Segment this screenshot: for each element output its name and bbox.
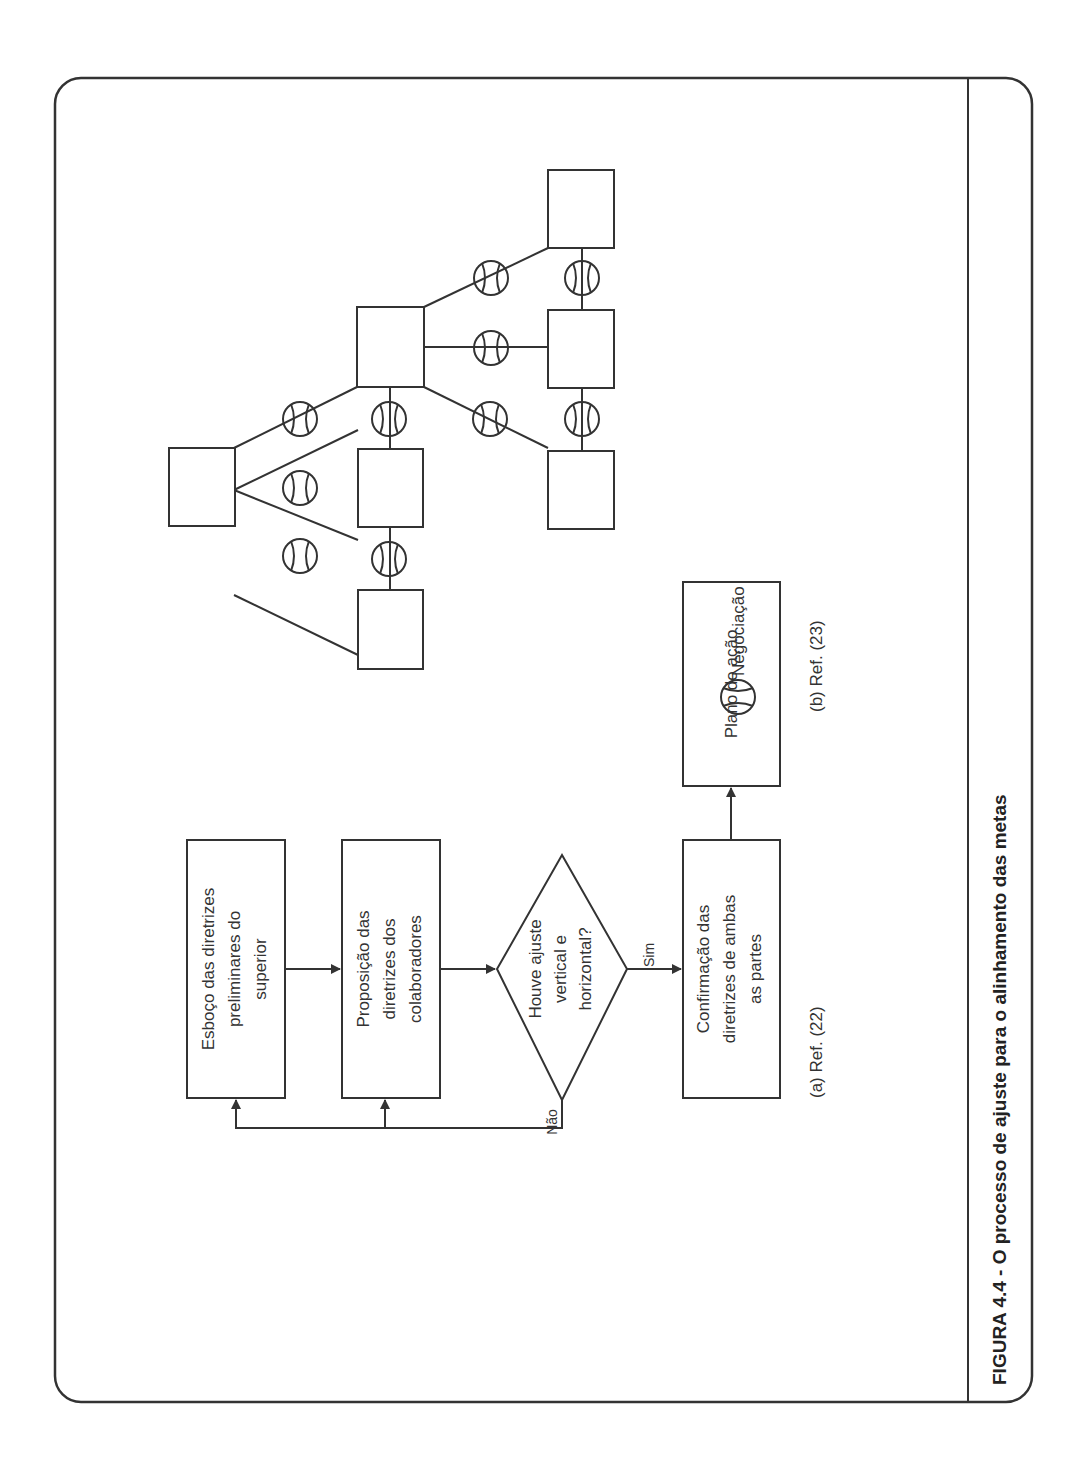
box-esboco-line2: preliminares do — [225, 911, 244, 1027]
box-proposicao-line1: Proposição das — [354, 910, 373, 1027]
box-esboco-line3: superior — [251, 938, 270, 1000]
box-esboco-line1: Esboço das diretrizes — [199, 888, 218, 1051]
box-confirmacao-line3: as partes — [746, 934, 765, 1004]
decision-line2: vertical e — [551, 935, 570, 1003]
label-nao: Não — [544, 1109, 560, 1135]
org-unit-box — [358, 449, 423, 527]
box-confirmacao-line2: diretrizes de ambas — [720, 895, 739, 1043]
org-unit-box — [548, 451, 614, 529]
negotiation-icon — [283, 471, 317, 505]
org-unit-box — [357, 307, 424, 387]
box-confirmacao-line1: Confirmação das — [694, 905, 713, 1034]
negotiation-icon — [283, 539, 317, 573]
org-unit-box — [548, 170, 614, 248]
negotiation-icon — [474, 261, 508, 295]
legend-label: Negociação — [729, 586, 748, 676]
reference-a: (a) Ref. (22) — [807, 1006, 826, 1098]
decision-line3: horizontal? — [576, 927, 595, 1010]
figure-frame — [55, 78, 1032, 1402]
figure-caption: FIGURA 4.4 - O processo de ajuste para o… — [989, 794, 1010, 1385]
label-sim: Sim — [641, 943, 657, 967]
loop-no-path — [236, 1100, 562, 1128]
box-proposicao-line3: colaboradores — [406, 915, 425, 1023]
org-unit-box — [358, 590, 423, 669]
figure-canvas: FIGURA 4.4 - O processo de ajuste para o… — [0, 0, 1078, 1478]
reference-b: (b) Ref. (23) — [807, 620, 826, 712]
decision-line1: Houve ajuste — [526, 919, 545, 1018]
negotiation-icon — [283, 402, 317, 436]
box-proposicao-line2: diretrizes dos — [380, 918, 399, 1019]
org-unit-box — [169, 448, 235, 526]
org-unit-box — [548, 310, 614, 388]
